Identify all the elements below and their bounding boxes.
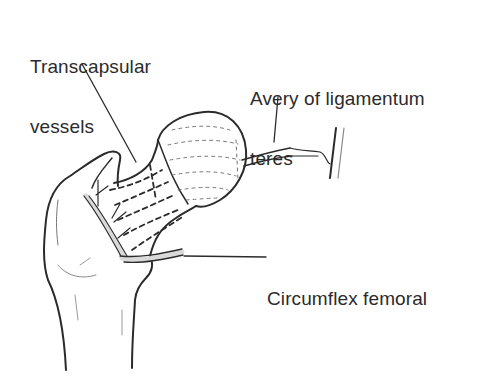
label-transcapsular-line1: Transcapsular — [30, 57, 151, 77]
femoral-neck-lower-outline — [150, 206, 196, 256]
label-avery-of-ligamentum-teres: Avery of ligamentum teres — [250, 49, 425, 209]
femoral-head-blood-supply-diagram: Transcapsular vessels Avery of ligamentu… — [0, 0, 493, 385]
femoral-shaft-medial-outline — [132, 258, 152, 368]
label-transcapsular-vessels: Transcapsular vessels — [30, 17, 151, 177]
label-transcapsular-line2: vessels — [30, 117, 151, 137]
label-circumflex-text: Circumflex femoral — [267, 289, 427, 309]
transcapsular-vessel-branches — [84, 180, 130, 258]
label-circumflex-femoral: Circumflex femoral — [267, 249, 427, 349]
label-avery-line2: teres — [250, 149, 425, 169]
greater-trochanter-outline — [44, 152, 120, 370]
leader-line-circumflex — [184, 256, 266, 257]
label-avery-line1: Avery of ligamentum — [250, 89, 425, 109]
